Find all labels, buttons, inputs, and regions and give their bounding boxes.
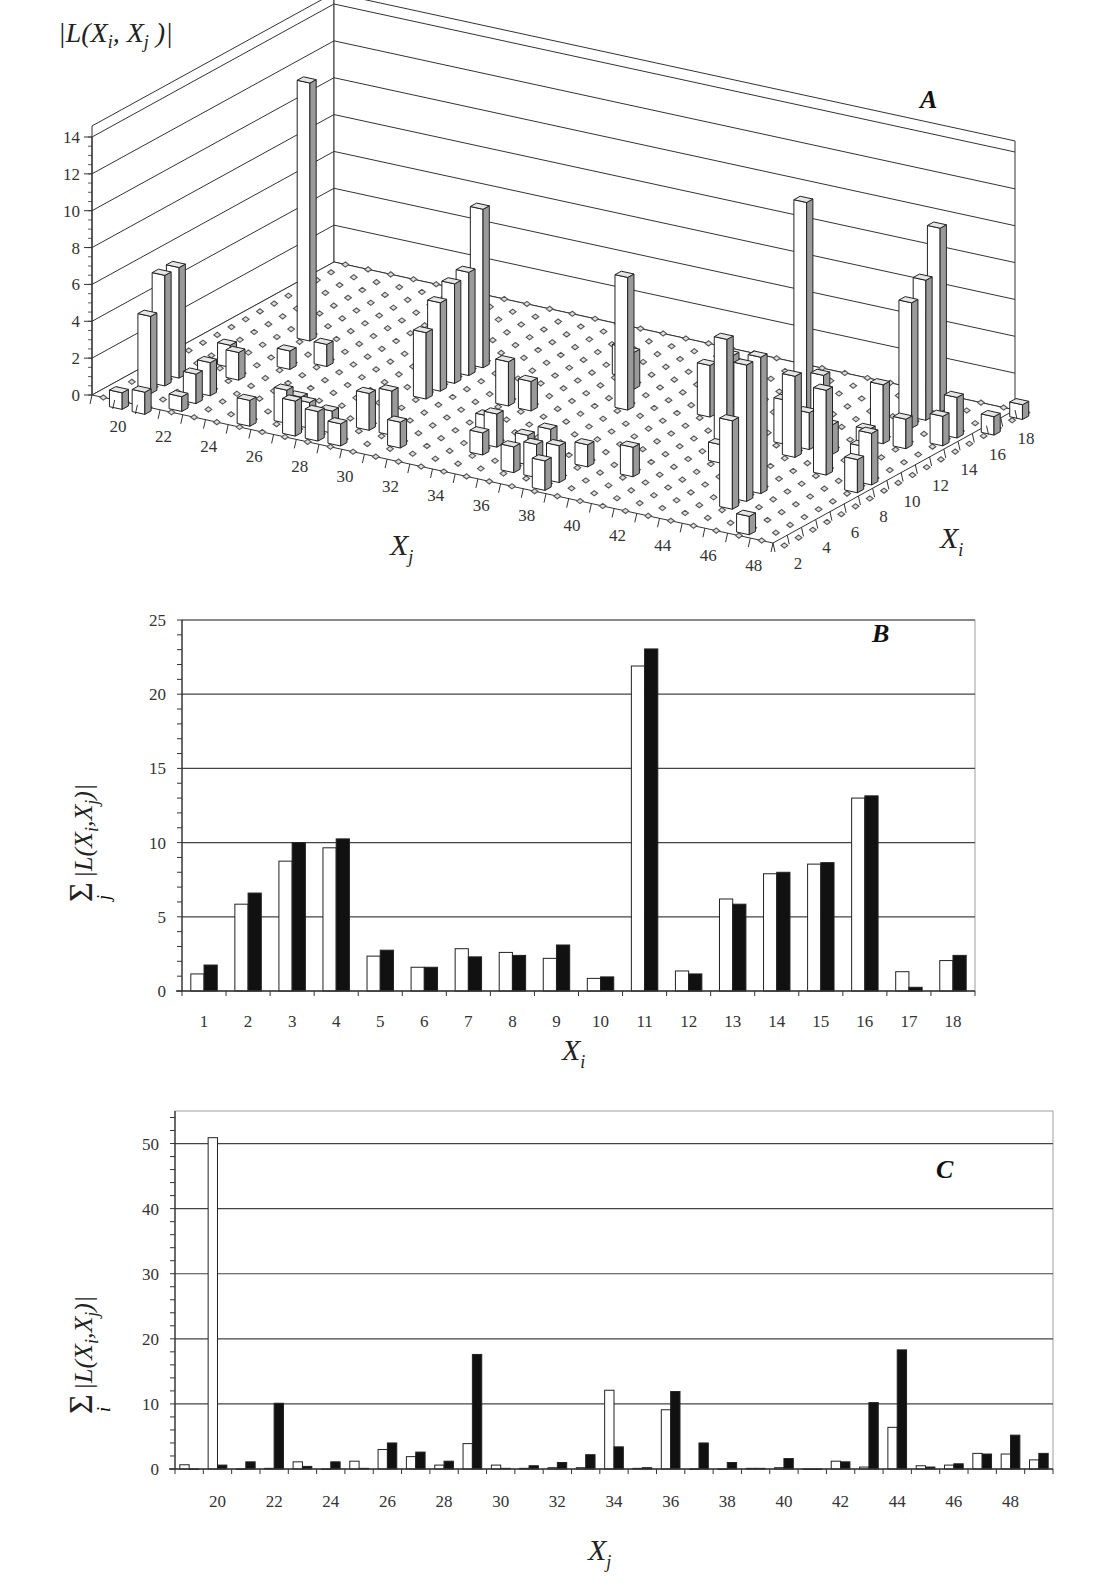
- bar-white-25: [350, 1461, 359, 1469]
- bar3d: [575, 439, 594, 467]
- bar3d-side: [747, 362, 753, 502]
- bar-white-47: [973, 1453, 982, 1469]
- bar3d: [226, 346, 245, 380]
- bar3d-side: [318, 408, 324, 441]
- xj-tick-label: 28: [291, 457, 308, 476]
- bar-black-26: [387, 1443, 396, 1469]
- xj-tick-label: 42: [609, 526, 626, 545]
- bar3d-front: [356, 391, 369, 431]
- bar3d-side: [857, 456, 863, 493]
- xj-tick: [181, 415, 183, 424]
- x-tick-label: 12: [680, 1012, 697, 1031]
- bar3d: [305, 405, 324, 441]
- bar3d-front: [470, 430, 483, 455]
- bar3d-front: [782, 374, 795, 458]
- bar3d: [697, 359, 716, 417]
- xj-tick-label: 46: [700, 546, 717, 565]
- xi-tick-label: 12: [932, 476, 949, 495]
- bar3d-front: [132, 389, 145, 414]
- bar3d-side: [531, 378, 537, 411]
- chart-b-plot: 0510152025123456789101112131415161718 B …: [0, 590, 1108, 1090]
- bar-black-44: [897, 1350, 906, 1469]
- floor-marker: [881, 488, 888, 493]
- x-tick-label: 6: [420, 1012, 429, 1031]
- bar-black-15: [821, 863, 834, 991]
- bar3d: [981, 410, 1000, 435]
- floor-marker: [781, 543, 788, 548]
- bar-black-18: [953, 955, 966, 991]
- y-tick-label: 10: [142, 1395, 159, 1414]
- bar-black-46: [954, 1464, 963, 1469]
- bar3d: [893, 413, 912, 449]
- bar3d-side: [426, 329, 432, 399]
- xj-tick: [726, 533, 728, 542]
- bar-white-36: [661, 1410, 670, 1469]
- chart-a-xi-axis-label: Xi: [939, 521, 963, 560]
- xj-tick: [544, 494, 546, 503]
- bar3d: [814, 384, 833, 475]
- xj-tick-label: 34: [427, 486, 445, 505]
- chart-c-panel-letter: C: [936, 1155, 954, 1184]
- bar-white-6: [411, 967, 424, 991]
- chart-a-xj-axis-label: Xj: [389, 528, 413, 567]
- chart-c-column-sums: 0102030405020222426283032343638404244464…: [0, 1090, 1108, 1591]
- y-tick-label: 20: [149, 685, 166, 704]
- xj-tick: [272, 434, 274, 443]
- z-tick-label: 2: [72, 349, 81, 368]
- xi-tick: [858, 496, 860, 505]
- xj-tick: [385, 459, 387, 468]
- y-tick-label: 5: [158, 908, 167, 927]
- y-tick-label: 0: [158, 982, 167, 1001]
- y-tick-label: 40: [142, 1200, 159, 1219]
- bar3d-front: [930, 414, 943, 446]
- bar-white-13: [719, 899, 732, 991]
- bar3d-side: [196, 371, 202, 404]
- bar-white-10: [587, 978, 600, 991]
- x-tick-label: 15: [812, 1012, 829, 1031]
- xi-tick-label: 6: [851, 523, 860, 542]
- floor-marker: [866, 496, 873, 501]
- xi-tick: [972, 433, 974, 442]
- y-tick-label: 20: [142, 1330, 159, 1349]
- x-tick-label: 30: [492, 1492, 509, 1511]
- bar3d-side: [943, 413, 949, 446]
- bar3d: [501, 441, 520, 473]
- y-tick-label: 50: [142, 1135, 159, 1154]
- bar3d: [899, 297, 918, 429]
- bar3d: [328, 418, 347, 446]
- svg-text:Σ|L(Xi,Xj)|: Σ|L(Xi,Xj)|: [62, 1296, 102, 1414]
- xj-tick: [453, 474, 455, 483]
- chart-c-plot: 0102030405020222426283032343638404244464…: [0, 1090, 1108, 1591]
- bar-black-48: [1011, 1435, 1020, 1469]
- bar3d: [356, 387, 375, 430]
- floor-marker: [809, 527, 816, 532]
- bar3d-front: [109, 390, 122, 409]
- x-tick-label: 3: [288, 1012, 297, 1031]
- xi-tick: [915, 465, 917, 474]
- xi-tick: [944, 449, 946, 458]
- xi-tick: [830, 512, 832, 521]
- bar3d: [132, 386, 151, 414]
- z-tick-label: 14: [63, 128, 81, 147]
- bar-white-18: [940, 961, 953, 991]
- bar3d-side: [588, 441, 594, 467]
- bar-black-10: [601, 977, 614, 991]
- xi-tick: [930, 457, 932, 466]
- bar-black-36: [671, 1392, 680, 1469]
- xj-tick: [612, 508, 614, 517]
- bar3d: [532, 455, 551, 491]
- x-tick-label: 26: [379, 1492, 396, 1511]
- bar3d-side: [826, 387, 832, 475]
- bar-black-43: [869, 1403, 878, 1469]
- x-tick-label: 40: [775, 1492, 792, 1511]
- bar-black-9: [556, 945, 569, 991]
- bar-black-11: [645, 649, 658, 991]
- x-tick-label: 14: [768, 1012, 786, 1031]
- bar3d-front: [226, 350, 239, 380]
- svg-text:i: i: [94, 1407, 114, 1412]
- bar-white-1: [191, 974, 204, 991]
- bar-white-2: [235, 904, 248, 991]
- x-tick-label: 8: [508, 1012, 517, 1031]
- xj-tick: [680, 523, 682, 532]
- x-tick-label: 24: [322, 1492, 340, 1511]
